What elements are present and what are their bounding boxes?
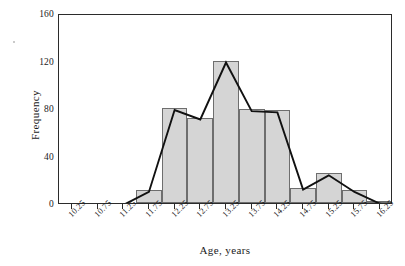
histogram-figure: Frequency 160 120 80 40 0 10.2510.7511.2… [0, 0, 405, 266]
plot-frame [58, 14, 392, 204]
y-axis-tick-labels: 160 120 80 40 0 [22, 0, 54, 266]
paper-speck [13, 41, 15, 43]
histogram-bar [213, 61, 239, 204]
y-tick-label-120: 120 [39, 57, 54, 67]
histogram-bar [162, 108, 188, 203]
y-tick-label-0: 0 [49, 199, 54, 209]
histogram-bar [265, 110, 291, 203]
y-tick-label-40: 40 [44, 152, 54, 162]
x-axis-title: Age, years [58, 244, 392, 256]
histogram-bar [239, 109, 265, 203]
plot-area [59, 15, 391, 203]
histogram-bar [187, 118, 213, 204]
y-tick-label-160: 160 [39, 9, 54, 19]
y-tick-label-80: 80 [44, 104, 54, 114]
